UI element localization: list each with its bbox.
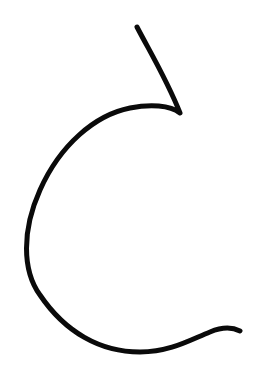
drawing-canvas <box>0 0 264 380</box>
curved-arrow-icon <box>0 0 264 380</box>
arrow-stroke <box>27 27 241 352</box>
